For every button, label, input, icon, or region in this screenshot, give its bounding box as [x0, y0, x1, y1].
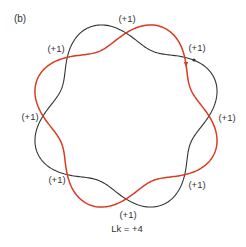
crossing-label-left: (+1): [21, 112, 38, 122]
crossing-label-upper-right: (+1): [188, 43, 205, 53]
crossing-label-bottom: (+1): [119, 210, 136, 220]
crossing-label-right: (+1): [218, 113, 235, 123]
linking-number-diagram: (b) (+1) (+1) (+1) (+1) (+1) (+1) (+1) (…: [0, 0, 246, 247]
red-strand-arrow-icon: [184, 62, 188, 67]
crossing-label-top: (+1): [118, 14, 135, 24]
crossing-label-lower-right: (+1): [188, 180, 205, 190]
crossing-label-upper-left: (+1): [47, 44, 64, 54]
panel-label: (b): [14, 14, 26, 24]
crossing-label-lower-left: (+1): [48, 175, 65, 185]
linking-number-label: Lk = +4: [111, 224, 143, 234]
black-strand-arrow-icon: [192, 58, 195, 61]
